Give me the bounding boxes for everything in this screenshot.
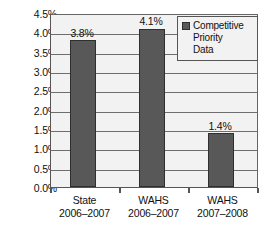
bar-wahs-2006-2007 (139, 29, 165, 188)
x-axis-category-line1: State (73, 194, 97, 206)
x-axis-category-line2: 2007–2008 (188, 207, 257, 220)
x-axis-category-line1: WAHS (207, 194, 237, 206)
x-axis-tick (257, 188, 259, 193)
x-axis-category-line1: WAHS (138, 194, 168, 206)
x-axis-category-line2: 2006–2007 (50, 207, 119, 220)
x-axis-tick (50, 188, 52, 193)
x-axis-tick (188, 188, 190, 193)
bar-chart: 4.5% 4.0% 3.5% 3.0% 2.5% 2.0% 1.5% 1.0% … (0, 0, 275, 232)
x-axis-category-label: State 2006–2007 (50, 194, 119, 220)
bar-wahs-2007-2008 (208, 133, 234, 187)
legend: Competitive Priority Data (177, 16, 258, 61)
x-axis-tick (119, 188, 121, 193)
x-axis-category-label: WAHS 2007–2008 (188, 194, 257, 220)
legend-label: Competitive Priority Data (193, 20, 244, 56)
legend-swatch-icon (182, 22, 190, 30)
legend-label-line1: Competitive (193, 20, 244, 32)
legend-label-line3: Data (193, 44, 244, 56)
bar-value-label: 4.1% (119, 16, 183, 27)
bar-state-2006-2007 (70, 40, 96, 187)
bar-value-label: 1.4% (188, 121, 252, 132)
x-axis-category-line2: 2006–2007 (119, 207, 188, 220)
bar-value-label: 3.8% (50, 28, 114, 39)
x-axis-category-label: WAHS 2006–2007 (119, 194, 188, 220)
legend-item: Competitive Priority Data (182, 20, 254, 56)
legend-label-line2: Priority (193, 32, 244, 44)
